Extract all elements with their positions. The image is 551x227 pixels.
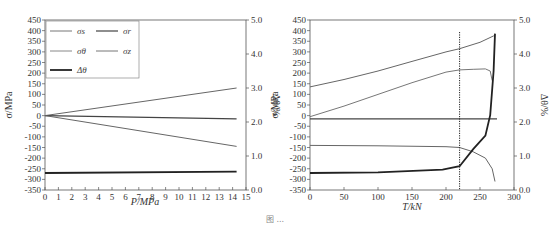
y-tick-label: 250 bbox=[28, 58, 42, 68]
y-tick-label: -200 bbox=[25, 153, 42, 163]
y2-tick-label: 4.0 bbox=[251, 49, 263, 59]
figure-caption: 图 ... bbox=[266, 215, 284, 224]
y-tick-label: -200 bbox=[290, 153, 307, 163]
y2-tick-label: 2.0 bbox=[519, 117, 531, 127]
legend-label-sigma-theta: σθ bbox=[77, 46, 86, 56]
right-y2-axis-title: Δθ/% bbox=[539, 94, 550, 116]
left-y-axis: 450400350300250200150100500-50-100-150-2… bbox=[25, 15, 46, 195]
y-tick-label: -150 bbox=[25, 143, 42, 153]
x-tick-label: 11 bbox=[188, 192, 197, 202]
right-plot-frame bbox=[310, 20, 514, 190]
x-tick-label: 6 bbox=[123, 192, 128, 202]
left-panel: 450400350300250200150100500-50-100-150-2… bbox=[3, 15, 282, 207]
x-tick-label: 250 bbox=[473, 192, 487, 202]
right-y-axis-title: σ/MPa bbox=[269, 91, 280, 119]
y2-tick-label: 1.0 bbox=[519, 151, 531, 161]
x-tick-label: 12 bbox=[201, 192, 210, 202]
y-tick-label: 300 bbox=[28, 47, 42, 57]
series-line bbox=[310, 34, 495, 173]
y-tick-label: 350 bbox=[293, 36, 307, 46]
y2-tick-label: 1.0 bbox=[251, 151, 263, 161]
y-tick-label: 300 bbox=[293, 47, 307, 57]
x-tick-label: 100 bbox=[371, 192, 385, 202]
x-tick-label: 15 bbox=[242, 192, 252, 202]
right-y2-axis: 5.04.03.02.01.00.0 bbox=[514, 15, 531, 195]
y-tick-label: 150 bbox=[28, 79, 42, 89]
x-tick-label: 50 bbox=[340, 192, 350, 202]
right-x-axis: 050100150200250300 bbox=[308, 187, 522, 202]
series-line bbox=[310, 69, 492, 117]
y2-tick-label: 5.0 bbox=[251, 15, 263, 25]
y-tick-label: -250 bbox=[25, 164, 42, 174]
left-y2-axis: 5.04.03.02.01.00.0 bbox=[246, 15, 263, 195]
y-tick-label: -350 bbox=[25, 185, 42, 195]
y-tick-label: -300 bbox=[25, 174, 42, 184]
y-tick-label: -50 bbox=[29, 121, 41, 131]
y2-tick-label: 0.0 bbox=[251, 185, 263, 195]
y-tick-label: -300 bbox=[290, 174, 307, 184]
y-tick-label: 400 bbox=[293, 26, 307, 36]
x-tick-label: 0 bbox=[43, 192, 48, 202]
x-tick-label: 2 bbox=[70, 192, 75, 202]
y-tick-label: 0 bbox=[302, 111, 307, 121]
x-tick-label: 200 bbox=[439, 192, 453, 202]
y-tick-label: 100 bbox=[293, 89, 307, 99]
legend-label-delta-theta: Δθ bbox=[76, 65, 87, 75]
left-x-axis-title: P/MPa bbox=[130, 196, 159, 207]
series-line bbox=[45, 88, 237, 116]
y-tick-label: 0 bbox=[37, 111, 42, 121]
y-tick-label: -100 bbox=[25, 132, 42, 142]
y-tick-label: 350 bbox=[28, 36, 42, 46]
x-tick-label: 4 bbox=[96, 192, 101, 202]
y2-tick-label: 3.0 bbox=[519, 83, 531, 93]
x-tick-label: 9 bbox=[163, 192, 168, 202]
y-tick-label: 200 bbox=[28, 68, 42, 78]
legend-label-sigma-s: σs bbox=[77, 26, 85, 36]
x-tick-label: 13 bbox=[215, 192, 225, 202]
legend-label-sigma-z: σz bbox=[123, 46, 131, 56]
right-y-axis: 450400350300250200150100500-50-100-150-2… bbox=[290, 15, 311, 195]
right-panel: 450400350300250200150100500-50-100-150-2… bbox=[269, 15, 550, 212]
x-tick-label: 1 bbox=[56, 192, 61, 202]
y-tick-label: 100 bbox=[28, 89, 42, 99]
x-tick-label: 300 bbox=[507, 192, 521, 202]
series-line bbox=[45, 116, 237, 119]
x-tick-label: 3 bbox=[83, 192, 88, 202]
y-tick-label: 50 bbox=[32, 100, 42, 110]
y-tick-label: 250 bbox=[293, 58, 307, 68]
y-tick-label: -100 bbox=[290, 132, 307, 142]
series-line bbox=[45, 172, 237, 173]
y-tick-label: 450 bbox=[293, 15, 307, 25]
right-x-axis-title: T/kN bbox=[402, 201, 423, 212]
y-tick-label: -350 bbox=[290, 185, 307, 195]
legend: σs σr σθ σz Δθ bbox=[46, 21, 139, 78]
left-series-group bbox=[45, 88, 237, 173]
y2-tick-label: 3.0 bbox=[251, 83, 263, 93]
y-tick-label: 400 bbox=[28, 26, 42, 36]
y-tick-label: -250 bbox=[290, 164, 307, 174]
y2-tick-label: 2.0 bbox=[251, 117, 263, 127]
x-tick-label: 5 bbox=[110, 192, 115, 202]
right-series-group bbox=[310, 32, 497, 190]
x-tick-label: 14 bbox=[228, 192, 238, 202]
y-tick-label: 450 bbox=[28, 15, 42, 25]
y2-tick-label: 5.0 bbox=[519, 15, 531, 25]
x-tick-label: 0 bbox=[308, 192, 313, 202]
y-tick-label: 50 bbox=[297, 100, 307, 110]
series-line bbox=[310, 145, 495, 181]
x-tick-label: 10 bbox=[175, 192, 185, 202]
y2-tick-label: 0.0 bbox=[519, 185, 531, 195]
chart-canvas: 450400350300250200150100500-50-100-150-2… bbox=[0, 0, 551, 227]
series-line bbox=[310, 35, 495, 87]
legend-label-sigma-r: σr bbox=[123, 26, 131, 36]
left-y-axis-title: σ/MPa bbox=[3, 91, 14, 119]
y-tick-label: 200 bbox=[293, 68, 307, 78]
y-tick-label: 150 bbox=[293, 79, 307, 89]
y2-tick-label: 4.0 bbox=[519, 49, 531, 59]
series-line bbox=[45, 116, 237, 147]
y-tick-label: -50 bbox=[294, 121, 306, 131]
y-tick-label: -150 bbox=[290, 143, 307, 153]
